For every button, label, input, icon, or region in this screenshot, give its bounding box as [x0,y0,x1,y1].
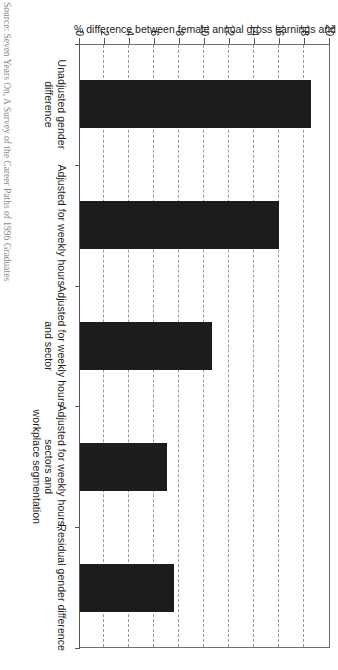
source-note-text: Source: Seven Years On, A Survey of the … [2,2,12,281]
bar [80,80,311,128]
category-label-line: Unadjusted gender difference [43,36,68,173]
bar-chart-figure: 02468101214161820 Unadjusted gender diff… [0,0,338,670]
gridline [228,45,229,647]
bar [80,443,168,491]
figure-stage: 02468101214161820 Unadjusted gender diff… [0,0,338,670]
y-tick-mark [129,38,130,44]
bar [80,564,174,612]
gridline [303,45,304,647]
category-label: Adjusted for weekly hours, sectors andwo… [31,398,69,535]
y-tick-mark [254,38,255,44]
category-label-line: Adjusted for weekly hours, sectors and [43,398,68,535]
category-tick-mark [75,286,80,287]
category-tick-mark [75,527,80,528]
y-tick-mark [304,38,305,44]
source-note: Source: Seven Years On, A Survey of the … [2,2,12,281]
category-label: Adjusted for weekly hours [56,157,69,294]
category-label: Residual gender difference [56,519,69,656]
y-tick-mark [279,38,280,44]
category-label-line: workplace segmentation [31,398,44,535]
category-label: Adjusted for weekly hours and sector [43,278,68,415]
category-label-line: Residual gender difference [56,519,69,656]
y-tick-mark [204,38,205,44]
bar [80,322,213,370]
bar [80,201,279,249]
category-label: Unadjusted gender difference [43,36,68,173]
category-tick-mark [75,406,80,407]
y-tick-mark [179,38,180,44]
category-tick-mark [75,648,80,649]
y-tick-mark [329,38,330,44]
y-tick-mark [229,38,230,44]
category-label-line: Adjusted for weekly hours and sector [43,278,68,415]
gridline [253,45,254,647]
category-tick-mark [75,44,80,45]
category-tick-mark [75,165,80,166]
y-tick-mark [104,38,105,44]
category-label-line: Adjusted for weekly hours [56,157,69,294]
y-axis-title: % difference between female annual gross… [74,23,324,35]
gridline [278,45,279,647]
y-tick-mark [154,38,155,44]
